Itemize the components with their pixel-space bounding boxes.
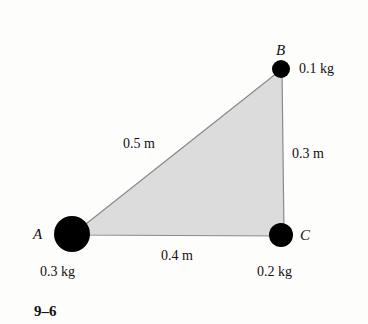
mass-b [272, 60, 290, 78]
mass-label-c: 0.2 kg [257, 264, 292, 280]
point-label-b: B [276, 42, 285, 58]
mass-label-b: 0.1 kg [299, 61, 334, 77]
point-label-a: A [33, 226, 42, 242]
side-label-ac: 0.4 m [161, 248, 193, 264]
mass-a [54, 216, 90, 252]
figure-label: 9–6 [34, 303, 57, 319]
mass-label-a: 0.3 kg [40, 264, 75, 280]
triangle-abc [72, 69, 284, 236]
point-label-c: C [300, 227, 310, 243]
mass-c [269, 223, 293, 247]
side-label-ab: 0.5 m [123, 136, 155, 152]
side-label-bc: 0.3 m [292, 146, 324, 162]
